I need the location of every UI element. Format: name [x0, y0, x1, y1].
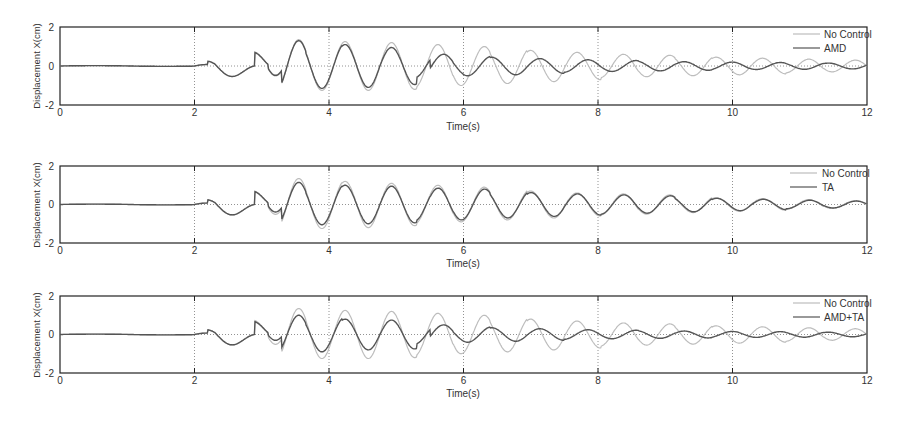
y-tick-neg2: -2	[45, 368, 54, 379]
x-axis-label: Time(s)	[446, 258, 480, 269]
y-axis-label: Displacement X(cm)	[31, 292, 42, 378]
x-tick: 0	[57, 245, 63, 256]
x-tick: 2	[192, 107, 198, 118]
legend-item-no-control: No Control	[824, 29, 872, 40]
y-tick-neg2: -2	[45, 100, 54, 111]
x-tick: 6	[461, 245, 467, 256]
x-ticks: 024681012	[57, 107, 873, 118]
legend-item-amd: AMD	[824, 43, 846, 54]
legend-item-no-control: No Control	[822, 168, 870, 179]
x-tick: 0	[57, 107, 63, 118]
x-tick: 2	[192, 245, 198, 256]
y-tick-0: 0	[48, 329, 54, 340]
x-axis-label: Time(s)	[446, 388, 480, 399]
panel-ta: 2 0 -2 024681012 Time(s) Displacement X(…	[31, 161, 873, 269]
x-tick: 6	[461, 107, 467, 118]
panel-amd-ta: 2 0 -2 024681012 Time(s) Displacement X(…	[31, 291, 873, 399]
x-ticks: 024681012	[57, 375, 873, 386]
x-tick: 4	[326, 375, 332, 386]
x-tick: 12	[861, 107, 873, 118]
y-axis-label: Displacement X(cm)	[31, 23, 42, 109]
y-tick-2: 2	[48, 22, 54, 33]
legend-item-amd-ta: AMD+TA	[824, 312, 864, 323]
y-tick-neg2: -2	[45, 238, 54, 249]
x-tick: 0	[57, 375, 63, 386]
figure: 2 0 -2 024681012 Time(s) Displacement X(…	[0, 0, 903, 422]
x-tick: 2	[192, 375, 198, 386]
y-tick-0: 0	[48, 61, 54, 72]
x-ticks: 024681012	[57, 245, 873, 256]
legend-item-ta: TA	[822, 182, 834, 193]
x-tick: 8	[595, 375, 601, 386]
x-tick: 8	[595, 107, 601, 118]
x-axis-label: Time(s)	[446, 121, 480, 132]
y-tick-2: 2	[48, 291, 54, 302]
x-tick: 6	[461, 375, 467, 386]
x-tick: 12	[861, 245, 873, 256]
y-axis-label: Displacement X(cm)	[31, 162, 42, 248]
x-tick: 10	[727, 375, 739, 386]
y-tick-2: 2	[48, 161, 54, 172]
x-tick: 8	[595, 245, 601, 256]
x-tick: 10	[727, 107, 739, 118]
x-tick: 10	[727, 245, 739, 256]
x-tick: 12	[861, 375, 873, 386]
x-tick: 4	[326, 107, 332, 118]
y-tick-0: 0	[48, 199, 54, 210]
panel-amd: 2 0 -2 024681012 Time(s) Displacement X(…	[31, 22, 873, 132]
x-tick: 4	[326, 245, 332, 256]
legend-item-no-control: No Control	[824, 298, 872, 309]
